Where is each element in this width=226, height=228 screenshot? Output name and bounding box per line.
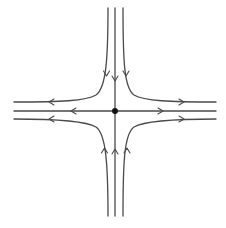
trajectory-top-left	[14, 8, 110, 105]
arrow-up-icon	[102, 148, 108, 153]
trajectory-top-right	[123, 8, 216, 105]
arrow-left-icon	[49, 116, 54, 122]
saddle-phase-portrait	[0, 0, 226, 228]
trajectory-bottom-right	[123, 116, 216, 216]
trajectory-bottom-left	[14, 116, 108, 216]
fixed-point	[112, 108, 118, 114]
